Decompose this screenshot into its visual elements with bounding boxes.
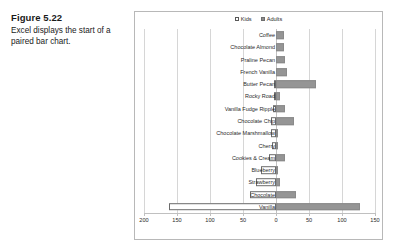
- category-label: Strawberry: [248, 179, 275, 185]
- bar-row: Butter Pecan: [144, 78, 375, 90]
- category-label: Chocolate Almond: [230, 44, 275, 50]
- bar-row: Chocolate Almond: [144, 41, 375, 53]
- axis-tick-label: 150: [172, 217, 181, 223]
- legend-swatch-kids-icon: [235, 17, 239, 21]
- axis-tick: [210, 213, 211, 216]
- category-label: Chocolate Chip: [237, 118, 275, 124]
- legend-label-adults: Adults: [267, 16, 283, 22]
- category-label: French Vanilla: [240, 69, 275, 75]
- x-axis-labels: 20015010050050100150: [144, 217, 375, 227]
- bar-adults[interactable]: [276, 154, 285, 162]
- category-label: Chocolate Marshmallow: [216, 130, 275, 136]
- category-label: Vanilla Fudge Ripple: [225, 106, 275, 112]
- bar-row: Blueberry: [144, 164, 375, 176]
- category-label: Praline Pecan: [241, 57, 275, 63]
- bar-adults[interactable]: [276, 203, 360, 211]
- axis-tick: [144, 213, 145, 216]
- bar-adults[interactable]: [276, 129, 278, 137]
- chart-container[interactable]: Kids Adults CoffeeChocolate AlmondPralin…: [134, 11, 383, 240]
- bar-row: Rocky Road: [144, 90, 375, 102]
- bar-row: Strawberry: [144, 176, 375, 188]
- bar-row: Chocolate Chip: [144, 115, 375, 127]
- axis-tick: [375, 213, 376, 216]
- bar-row: Vanilla: [144, 201, 375, 213]
- gridline: [375, 29, 376, 213]
- plot-area: CoffeeChocolate AlmondPraline PecanFrenc…: [144, 29, 375, 213]
- figure-caption: Figure 5.22 Excel displays the start of …: [11, 12, 123, 47]
- bar-adults[interactable]: [276, 93, 280, 101]
- bar-row: Chocolate Marshmallow: [144, 127, 375, 139]
- axis-tick-label: 200: [139, 217, 148, 223]
- bar-rows: CoffeeChocolate AlmondPraline PecanFrenc…: [144, 29, 375, 213]
- bar-adults[interactable]: [276, 191, 296, 199]
- legend-entry-adults[interactable]: Adults: [261, 16, 283, 22]
- category-label: Butter Pecan: [243, 81, 275, 87]
- bar-row: Cherry: [144, 139, 375, 151]
- axis-tick-label: 100: [337, 217, 346, 223]
- figure-description: Excel displays the start of a paired bar…: [11, 25, 123, 47]
- legend-label-kids: Kids: [241, 16, 252, 22]
- bar-adults[interactable]: [276, 80, 316, 88]
- category-label: Rocky Road: [245, 93, 275, 99]
- x-axis-ticks: [144, 213, 375, 216]
- axis-tick-label: 50: [240, 217, 246, 223]
- bar-row: Coffee: [144, 29, 375, 41]
- category-label: Cookies & Cream: [232, 155, 275, 161]
- chart-legend: Kids Adults: [135, 16, 382, 22]
- axis-tick-label: 100: [205, 217, 214, 223]
- axis-tick: [243, 213, 244, 216]
- bar-adults[interactable]: [276, 142, 278, 150]
- bar-adults[interactable]: [276, 44, 284, 52]
- figure-number: Figure 5.22: [11, 12, 123, 24]
- category-label: Blueberry: [251, 167, 275, 173]
- bar-adults[interactable]: [276, 68, 287, 76]
- axis-tick: [342, 213, 343, 216]
- axis-tick-label: 0: [274, 217, 277, 223]
- axis-tick: [276, 213, 277, 216]
- bar-adults[interactable]: [276, 105, 285, 113]
- bar-adults[interactable]: [276, 31, 284, 39]
- axis-tick-label: 150: [370, 217, 379, 223]
- legend-entry-kids[interactable]: Kids: [235, 16, 252, 22]
- bar-adults[interactable]: [276, 117, 294, 125]
- bar-adults[interactable]: [276, 56, 285, 64]
- axis-tick: [309, 213, 310, 216]
- bar-row: Vanilla Fudge Ripple: [144, 103, 375, 115]
- category-label: Chocolate: [250, 192, 275, 198]
- bar-row: Cookies & Cream: [144, 152, 375, 164]
- bar-row: Praline Pecan: [144, 54, 375, 66]
- bar-row: French Vanilla: [144, 66, 375, 78]
- category-label: Coffee: [259, 32, 275, 38]
- bar-adults[interactable]: [276, 179, 280, 187]
- category-label: Cherry: [258, 143, 275, 149]
- axis-tick: [177, 213, 178, 216]
- category-label: Vanilla: [259, 204, 275, 210]
- bar-adults[interactable]: [276, 166, 278, 174]
- legend-swatch-adults-icon: [261, 17, 265, 21]
- axis-tick-label: 50: [306, 217, 312, 223]
- bar-row: Chocolate: [144, 188, 375, 200]
